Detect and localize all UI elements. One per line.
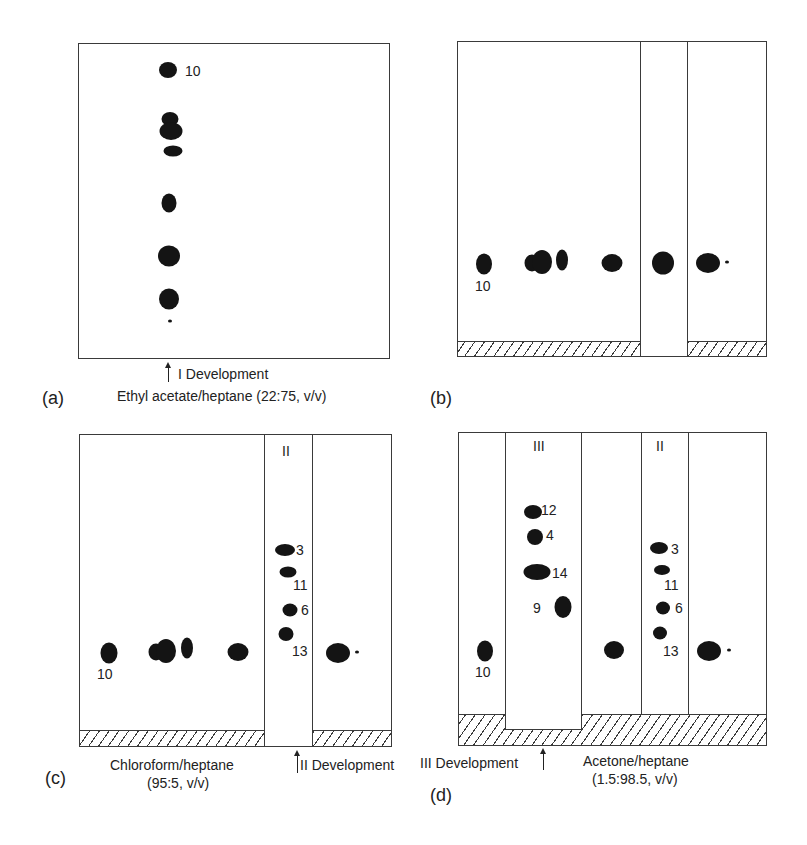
spot-label-13: 13 [292, 644, 308, 658]
development-arrow-c [297, 755, 298, 773]
lane-divider [312, 434, 313, 747]
lane-divider [505, 432, 506, 714]
panel-letter-a: (a) [42, 389, 64, 407]
hatched-band [687, 341, 767, 357]
panel-letter-b: (b) [430, 389, 452, 407]
lane-divider [581, 432, 582, 714]
lane-III-extension [505, 713, 582, 730]
spot [604, 641, 624, 659]
tlc-plate-b [457, 41, 767, 357]
development-arrow-d [543, 753, 544, 770]
spot [697, 641, 721, 661]
solvent-ratio-d: (1.5:98.5, v/v) [592, 771, 678, 787]
spot-6 [656, 602, 670, 615]
spot-11 [654, 565, 670, 575]
panel-letter-c: (c) [45, 769, 66, 787]
spot-label-10: 10 [97, 667, 113, 681]
spot-label-3: 3 [671, 542, 679, 556]
spot-label-4: 4 [546, 528, 554, 542]
hatched-band [312, 730, 392, 747]
spot-10 [477, 641, 493, 662]
spot [160, 122, 183, 140]
lane-label-II: II [656, 439, 664, 453]
lane-label-II: II [282, 444, 290, 458]
spot-9 [555, 596, 572, 618]
hatched-band [79, 730, 265, 747]
spot [158, 246, 180, 267]
spot [162, 194, 177, 213]
spot-label-13: 13 [663, 644, 679, 658]
spot-3 [275, 544, 295, 556]
spot-10 [101, 643, 118, 664]
spot-label-6: 6 [675, 601, 683, 615]
spot-trace [727, 649, 731, 652]
lane-label-III: III [533, 439, 545, 453]
spot-12 [524, 505, 542, 519]
spot [159, 289, 179, 310]
spot [326, 643, 350, 663]
spot-label-10: 10 [185, 64, 201, 78]
development-label-c: II Development [300, 757, 394, 773]
spot [532, 250, 552, 274]
lane-divider [264, 434, 265, 747]
spot [602, 254, 623, 272]
spot [164, 146, 183, 157]
spot-trace [355, 651, 359, 654]
spot-label-11: 11 [664, 578, 679, 592]
spot [228, 643, 249, 661]
spot [652, 252, 674, 275]
spot-label-14: 14 [552, 566, 568, 580]
spot-label-10: 10 [475, 665, 491, 679]
development-arrow-a [168, 367, 169, 382]
spot [556, 250, 568, 271]
tlc-plate-a [78, 43, 390, 359]
figure-caption-cutoff [0, 836, 807, 845]
spot-label-11: 11 [293, 578, 308, 592]
spot-label-10: 10 [475, 279, 491, 293]
lane-divider [687, 41, 688, 357]
spot [181, 638, 193, 659]
solvent-label-c: Chloroform/heptane [110, 757, 234, 773]
tlc-plate-c [79, 434, 392, 747]
spot-11 [280, 567, 297, 578]
panel-letter-d: (d) [430, 786, 452, 804]
spot-13 [279, 627, 294, 641]
spot-label-9: 9 [533, 601, 541, 615]
lane-divider [640, 41, 641, 357]
lane-divider [641, 432, 642, 714]
spot [156, 639, 176, 663]
spot-10 [159, 62, 177, 78]
spot-4 [527, 529, 543, 545]
lane-divider [688, 432, 689, 714]
development-label-d: III Development [420, 755, 518, 771]
spot-10 [476, 254, 492, 275]
spot-label-6: 6 [301, 603, 309, 617]
solvent-ratio-c: (95:5, v/v) [147, 775, 209, 791]
spot-trace [725, 261, 729, 264]
development-label-a: I Development [178, 366, 268, 382]
spot-6 [283, 604, 298, 617]
spot-label-3: 3 [296, 543, 304, 557]
spot-14 [524, 564, 551, 580]
solvent-label-d: Acetone/heptane [583, 753, 689, 769]
hatched-band [457, 341, 641, 357]
spot [696, 253, 720, 273]
solvent-label-a: Ethyl acetate/heptane (22:75, v/v) [117, 388, 326, 404]
spot-label-12: 12 [541, 503, 557, 517]
spot-trace [168, 320, 172, 323]
spot-3 [650, 542, 668, 554]
spot-13 [653, 627, 667, 640]
